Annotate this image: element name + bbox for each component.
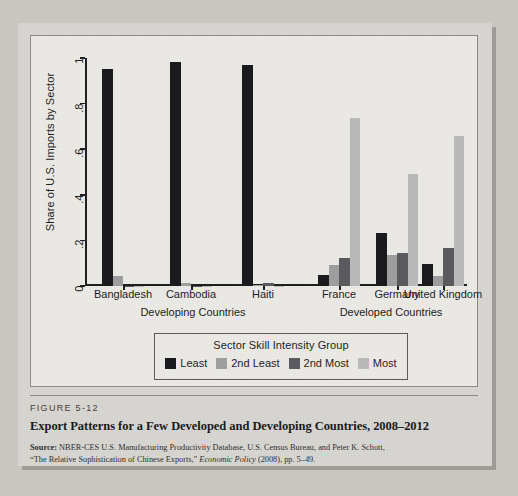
source-journal-name: Economic Policy: [199, 455, 255, 464]
legend-color-swatch: [358, 358, 369, 369]
y-tick-label: .6: [74, 149, 85, 158]
bar: [387, 255, 398, 286]
bar: [408, 174, 419, 286]
legend-items-row: Least2nd Least2nd MostMost: [155, 357, 407, 369]
y-axis-tick-labels: 0.2.4.6.81: [61, 36, 79, 326]
bar: [397, 253, 408, 286]
figure-number: FIGURE 5-12: [30, 403, 478, 413]
y-axis-title: Share of U.S. Imports by Sector: [44, 37, 56, 267]
legend-color-swatch: [289, 358, 300, 369]
legend-title: Sector Skill Intensity Group: [155, 339, 407, 351]
bar: [422, 264, 433, 286]
chart-panel: Share of U.S. Imports by Sector 0.2.4.6.…: [30, 35, 478, 387]
chart-legend: Sector Skill Intensity Group Least2nd Le…: [154, 333, 408, 380]
y-tick-label: .2: [74, 240, 85, 249]
x-axis-category-labels: BangladeshCambodiaHaitiFranceGermanyUnit…: [85, 288, 469, 306]
legend-item-label: Least: [180, 357, 207, 369]
source-text-line1: NBER-CES U.S. Manufacturing Productivity…: [57, 443, 385, 452]
bar: [433, 276, 444, 286]
legend-item: Least: [165, 357, 207, 369]
bar: [376, 233, 387, 286]
bar: [454, 136, 465, 286]
bar: [242, 65, 253, 286]
x-axis-group-label: Developed Countries: [316, 306, 466, 318]
x-axis-group-labels: Developing CountriesDeveloped Countries: [85, 306, 469, 322]
bar: [263, 283, 274, 286]
bar: [253, 285, 264, 286]
legend-item: 2nd Most: [289, 357, 349, 369]
bar: [113, 276, 124, 286]
bar: [102, 69, 113, 286]
source-label: Source:: [30, 443, 57, 452]
legend-item: Most: [358, 357, 397, 369]
legend-item-label: Most: [373, 357, 397, 369]
caption-divider: [30, 395, 478, 396]
y-tick-label: .4: [74, 194, 85, 203]
bar: [443, 248, 454, 286]
figure-container: Share of U.S. Imports by Sector 0.2.4.6.…: [18, 23, 492, 466]
source-text-line2-pre: “The Relative Sophistication of Chinese …: [30, 455, 199, 464]
figure-source: Source: NBER-CES U.S. Manufacturing Prod…: [30, 442, 478, 466]
bar: [170, 62, 181, 286]
bars-container: [87, 58, 467, 286]
legend-color-swatch: [165, 358, 176, 369]
plot-area: Share of U.S. Imports by Sector 0.2.4.6.…: [31, 36, 479, 326]
x-axis-group-label: Developing Countries: [118, 306, 268, 318]
bar: [329, 265, 340, 286]
legend-item-label: 2nd Most: [304, 357, 349, 369]
figure-title: Export Patterns for a Few Developed and …: [30, 419, 478, 434]
bar: [339, 258, 350, 287]
bar: [318, 275, 329, 286]
x-tick-label: United Kingdom: [383, 288, 503, 300]
legend-item: 2nd Least: [216, 357, 279, 369]
figure-caption-block: FIGURE 5-12 Export Patterns for a Few De…: [30, 395, 478, 455]
bar: [350, 118, 361, 286]
legend-color-swatch: [216, 358, 227, 369]
source-text-line2-post: (2008), pp. 5–49.: [256, 455, 315, 464]
bar: [181, 283, 192, 286]
legend-item-label: 2nd Least: [231, 357, 279, 369]
y-tick-label: .8: [74, 103, 85, 112]
